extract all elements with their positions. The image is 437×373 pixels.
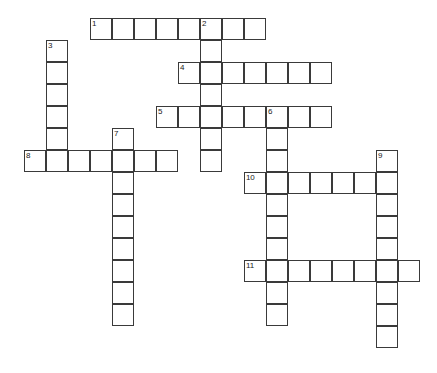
crossword-grid[interactable] [0, 0, 437, 373]
crossword-cell[interactable] [354, 260, 376, 282]
crossword-cell[interactable] [46, 84, 68, 106]
crossword-cell[interactable] [244, 18, 266, 40]
crossword-cell[interactable] [46, 62, 68, 84]
crossword-cell[interactable] [112, 172, 134, 194]
crossword-cell[interactable] [244, 62, 266, 84]
crossword-cell[interactable] [112, 194, 134, 216]
crossword-cell[interactable] [266, 194, 288, 216]
crossword-cell[interactable] [332, 260, 354, 282]
crossword-cell[interactable] [112, 304, 134, 326]
crossword-cell[interactable] [156, 150, 178, 172]
crossword-cell[interactable] [244, 106, 266, 128]
crossword-cell[interactable] [46, 106, 68, 128]
crossword-cell[interactable] [288, 106, 310, 128]
crossword-cell[interactable] [376, 238, 398, 260]
crossword-cell[interactable] [266, 62, 288, 84]
crossword-cell[interactable] [112, 150, 134, 172]
crossword-cell[interactable] [376, 216, 398, 238]
crossword-cell-numbered-5[interactable] [156, 106, 178, 128]
crossword-cell-numbered-8[interactable] [24, 150, 46, 172]
crossword-cell[interactable] [112, 216, 134, 238]
crossword-cell[interactable] [376, 260, 398, 282]
crossword-cell[interactable] [376, 282, 398, 304]
crossword-cell[interactable] [200, 128, 222, 150]
crossword-cell[interactable] [266, 150, 288, 172]
crossword-cell[interactable] [266, 172, 288, 194]
crossword-cell[interactable] [310, 260, 332, 282]
crossword-cell[interactable] [222, 18, 244, 40]
crossword-cell[interactable] [310, 172, 332, 194]
crossword-cell[interactable] [200, 62, 222, 84]
crossword-cell[interactable] [90, 150, 112, 172]
crossword-cell[interactable] [376, 194, 398, 216]
crossword-cell-numbered-7[interactable] [112, 128, 134, 150]
crossword-cell[interactable] [46, 128, 68, 150]
crossword-cell[interactable] [200, 84, 222, 106]
crossword-cell[interactable] [156, 18, 178, 40]
crossword-cell[interactable] [178, 18, 200, 40]
crossword-cell[interactable] [376, 172, 398, 194]
crossword-cell[interactable] [222, 62, 244, 84]
crossword-cell[interactable] [288, 172, 310, 194]
crossword-cell[interactable] [266, 238, 288, 260]
crossword-cell[interactable] [266, 282, 288, 304]
crossword-cell-numbered-2[interactable] [200, 18, 222, 40]
crossword-cell-numbered-1[interactable] [90, 18, 112, 40]
crossword-cell[interactable] [288, 62, 310, 84]
crossword-cell[interactable] [112, 18, 134, 40]
crossword-cell[interactable] [200, 150, 222, 172]
crossword-cell[interactable] [398, 260, 420, 282]
crossword-cell[interactable] [46, 150, 68, 172]
crossword-cell[interactable] [266, 260, 288, 282]
crossword-cell[interactable] [288, 260, 310, 282]
crossword-cell[interactable] [68, 150, 90, 172]
crossword-cell[interactable] [266, 304, 288, 326]
crossword-cell[interactable] [134, 18, 156, 40]
crossword-cell[interactable] [310, 62, 332, 84]
crossword-cell[interactable] [332, 172, 354, 194]
crossword-cell[interactable] [200, 106, 222, 128]
crossword-cell[interactable] [376, 304, 398, 326]
crossword-cell[interactable] [178, 106, 200, 128]
crossword-cell[interactable] [266, 128, 288, 150]
crossword-cell-numbered-6[interactable] [266, 106, 288, 128]
crossword-cell-numbered-11[interactable] [244, 260, 266, 282]
crossword-cell[interactable] [112, 282, 134, 304]
crossword-cell[interactable] [376, 326, 398, 348]
crossword-cell[interactable] [134, 150, 156, 172]
crossword-cell-numbered-4[interactable] [178, 62, 200, 84]
crossword-cell[interactable] [112, 260, 134, 282]
crossword-cell[interactable] [354, 172, 376, 194]
crossword-cell[interactable] [200, 40, 222, 62]
crossword-cell[interactable] [266, 216, 288, 238]
crossword-cell-numbered-3[interactable] [46, 40, 68, 62]
crossword-cell[interactable] [222, 106, 244, 128]
crossword-cell-numbered-10[interactable] [244, 172, 266, 194]
crossword-cell[interactable] [310, 106, 332, 128]
crossword-cell[interactable] [112, 238, 134, 260]
crossword-cell-numbered-9[interactable] [376, 150, 398, 172]
